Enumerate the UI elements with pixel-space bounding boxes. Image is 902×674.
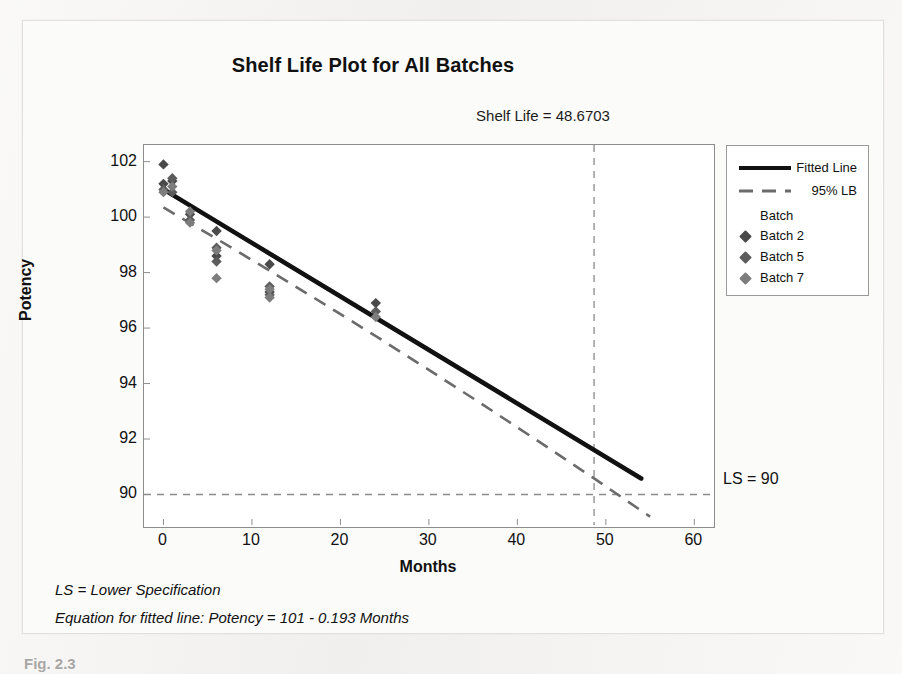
- x-tick-label: 0: [132, 531, 192, 549]
- data-points: [158, 159, 381, 322]
- x-tick-label: 30: [398, 531, 458, 549]
- legend-batch-label: Batch 5: [760, 249, 804, 264]
- shelf-life-annotation: Shelf Life = 48.6703: [403, 107, 683, 124]
- legend-label-lower-bound: 95% LB: [791, 183, 857, 198]
- y-tick-label: 96: [91, 318, 137, 336]
- legend-batch-key: [741, 232, 750, 241]
- legend-batch-marker: [739, 251, 752, 264]
- y-tick-label: 102: [91, 152, 137, 170]
- lower-spec-label: LS = 90: [723, 470, 779, 488]
- legend-batch-label: Batch 2: [760, 228, 804, 243]
- fitted-line: [163, 189, 641, 478]
- legend-batch-label: Batch 7: [760, 270, 804, 285]
- x-tick-label: 40: [486, 531, 546, 549]
- footnote-equation: Equation for fitted line: Potency = 101 …: [55, 609, 409, 626]
- data-point: [158, 159, 168, 169]
- figure-caption: Fig. 2.3: [24, 655, 544, 672]
- figure-caption-number: Fig. 2.3: [24, 655, 76, 672]
- chart-title: Shelf Life Plot for All Batches: [23, 54, 723, 77]
- x-tick-label: 50: [575, 531, 635, 549]
- lower-bound-line: [163, 207, 650, 516]
- x-axis-title: Months: [143, 558, 713, 576]
- x-tick-label: 20: [309, 531, 369, 549]
- y-tick-label: 98: [91, 263, 137, 281]
- legend-group-header: Batch: [760, 208, 793, 223]
- y-tick-label: 90: [91, 484, 137, 502]
- data-point: [211, 256, 221, 266]
- y-tick-label: 92: [91, 429, 137, 447]
- legend-batch-key: [741, 274, 750, 283]
- x-tick-marks: [163, 519, 694, 525]
- x-axis-ticks: 0102030405060: [143, 531, 713, 555]
- footnote-lower-specification: LS = Lower Specification: [55, 581, 221, 598]
- plot-area: [143, 144, 715, 528]
- data-point: [211, 273, 221, 283]
- y-tick-label: 100: [91, 207, 137, 225]
- plot-svg: [144, 145, 712, 525]
- figure-card: Shelf Life Plot for All Batches Shelf Li…: [22, 20, 884, 634]
- legend-label-fitted-line: Fitted Line: [791, 160, 857, 175]
- legend-box: Fitted Line 95% LB Batch Batch 2Batch 5B…: [726, 145, 869, 296]
- legend-batch-key: [741, 253, 750, 262]
- legend-batch-marker: [739, 230, 752, 243]
- x-tick-label: 60: [663, 531, 723, 549]
- y-tick-label: 94: [91, 374, 137, 392]
- legend-batch-marker: [739, 272, 752, 285]
- y-axis-title: Potency: [17, 259, 35, 321]
- x-tick-label: 10: [221, 531, 281, 549]
- y-tick-marks: [144, 162, 150, 495]
- y-axis-ticks: 9092949698100102: [75, 144, 137, 526]
- data-point: [211, 226, 221, 236]
